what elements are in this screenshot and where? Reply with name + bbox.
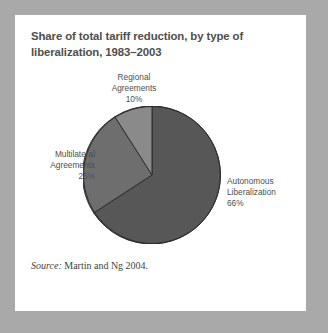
pie-label-autonomous-liberalization: Autonomous Liberalization 66% xyxy=(227,176,313,209)
figure-card: Share of total tariff reduction, by type… xyxy=(15,15,306,311)
figure-frame: Share of total tariff reduction, by type… xyxy=(0,0,328,333)
source-citation: Martin and Ng 2004. xyxy=(62,260,148,271)
pie-label-multilateral-agreements: Multilateral Agreements 25% xyxy=(17,149,95,182)
source-note: Source: Martin and Ng 2004. xyxy=(31,260,148,271)
source-label: Source: xyxy=(31,260,62,271)
pie-label-regional-agreements: Regional Agreements 10% xyxy=(91,72,177,105)
pie-chart-svg xyxy=(83,106,221,244)
